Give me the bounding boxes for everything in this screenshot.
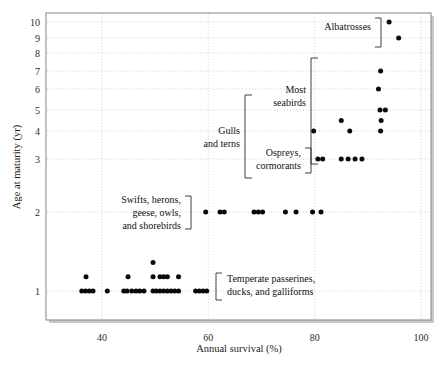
data-point-25 xyxy=(176,289,181,294)
annotation-albatrosses: Albatrosses xyxy=(324,21,371,32)
data-point-51 xyxy=(379,118,384,123)
data-point-43 xyxy=(339,157,344,162)
data-point-44 xyxy=(346,157,351,162)
data-point-14 xyxy=(151,274,156,279)
annotation-cormorants: cormorants xyxy=(256,160,301,171)
y-tick-label-8: 8 xyxy=(35,48,40,59)
x-tick-label-80: 80 xyxy=(310,332,320,343)
y-tick-label-2: 2 xyxy=(35,207,40,218)
data-point-47 xyxy=(311,129,316,134)
x-tick-label-40: 40 xyxy=(97,332,107,343)
annotation-geese-owls: geese, owls, xyxy=(132,207,181,218)
data-point-33 xyxy=(222,210,227,215)
data-point-52 xyxy=(378,108,383,113)
data-point-49 xyxy=(378,129,383,134)
scatter-plot-figure: 12345678910 406080100 Albatrosses Most s… xyxy=(0,0,438,368)
annotation-seabirds: seabirds xyxy=(273,97,306,108)
data-point-42 xyxy=(320,157,325,162)
data-point-5 xyxy=(105,289,110,294)
data-point-39 xyxy=(310,210,315,215)
y-axis-title: Age at maturity (yr) xyxy=(11,124,23,209)
data-point-48 xyxy=(347,129,352,134)
data-point-31 xyxy=(203,210,208,215)
annotation-ospreys: Ospreys, xyxy=(266,147,301,158)
x-tick-label-100: 100 xyxy=(414,332,429,343)
y-tick-label-7: 7 xyxy=(35,66,40,77)
data-point-36 xyxy=(260,210,265,215)
data-point-8 xyxy=(126,274,131,279)
data-point-22 xyxy=(165,274,170,279)
y-tick-label-9: 9 xyxy=(35,33,40,44)
data-point-15 xyxy=(151,260,156,265)
data-point-53 xyxy=(383,108,388,113)
data-point-4 xyxy=(90,289,95,294)
data-point-40 xyxy=(319,210,324,215)
y-axis-ticks: 12345678910 xyxy=(30,17,40,297)
y-tick-label-5: 5 xyxy=(35,105,40,116)
data-point-54 xyxy=(376,87,381,92)
data-point-50 xyxy=(339,118,344,123)
data-point-2 xyxy=(84,274,89,279)
data-point-46 xyxy=(359,157,364,162)
y-tick-label-4: 4 xyxy=(35,126,40,137)
y-tick-label-1: 1 xyxy=(35,286,40,297)
y-tick-label-6: 6 xyxy=(35,84,40,95)
data-point-12 xyxy=(142,289,147,294)
data-point-41 xyxy=(315,157,320,162)
data-point-38 xyxy=(294,210,299,215)
annotation-gulls: Gulls xyxy=(218,125,240,136)
annotation-most: Most xyxy=(285,84,306,95)
data-point-45 xyxy=(353,157,358,162)
data-point-30 xyxy=(204,289,209,294)
x-tick-label-60: 60 xyxy=(203,332,213,343)
annotation-and-terns: and terns xyxy=(204,138,240,149)
x-axis-title: Annual survival (%) xyxy=(196,343,282,355)
data-point-7 xyxy=(124,289,129,294)
data-point-9 xyxy=(129,289,134,294)
annotation-temperate-passerines: Temperate passerines, xyxy=(227,273,315,284)
chart-canvas: 12345678910 406080100 Albatrosses Most s… xyxy=(0,0,438,368)
annotation-and-shorebirds: and shorebirds xyxy=(122,220,181,231)
data-point-56 xyxy=(387,20,392,25)
y-tick-label-10: 10 xyxy=(30,17,40,28)
y-tick-label-3: 3 xyxy=(35,154,40,165)
data-point-37 xyxy=(283,210,288,215)
x-axis-ticks: 406080100 xyxy=(97,332,429,343)
data-point-26 xyxy=(176,274,181,279)
data-point-57 xyxy=(396,36,401,41)
data-point-55 xyxy=(378,69,383,74)
annotation-ducks-galliforms: ducks, and galliforms xyxy=(227,286,313,297)
annotation-swifts-herons: Swifts, herons, xyxy=(121,194,181,205)
